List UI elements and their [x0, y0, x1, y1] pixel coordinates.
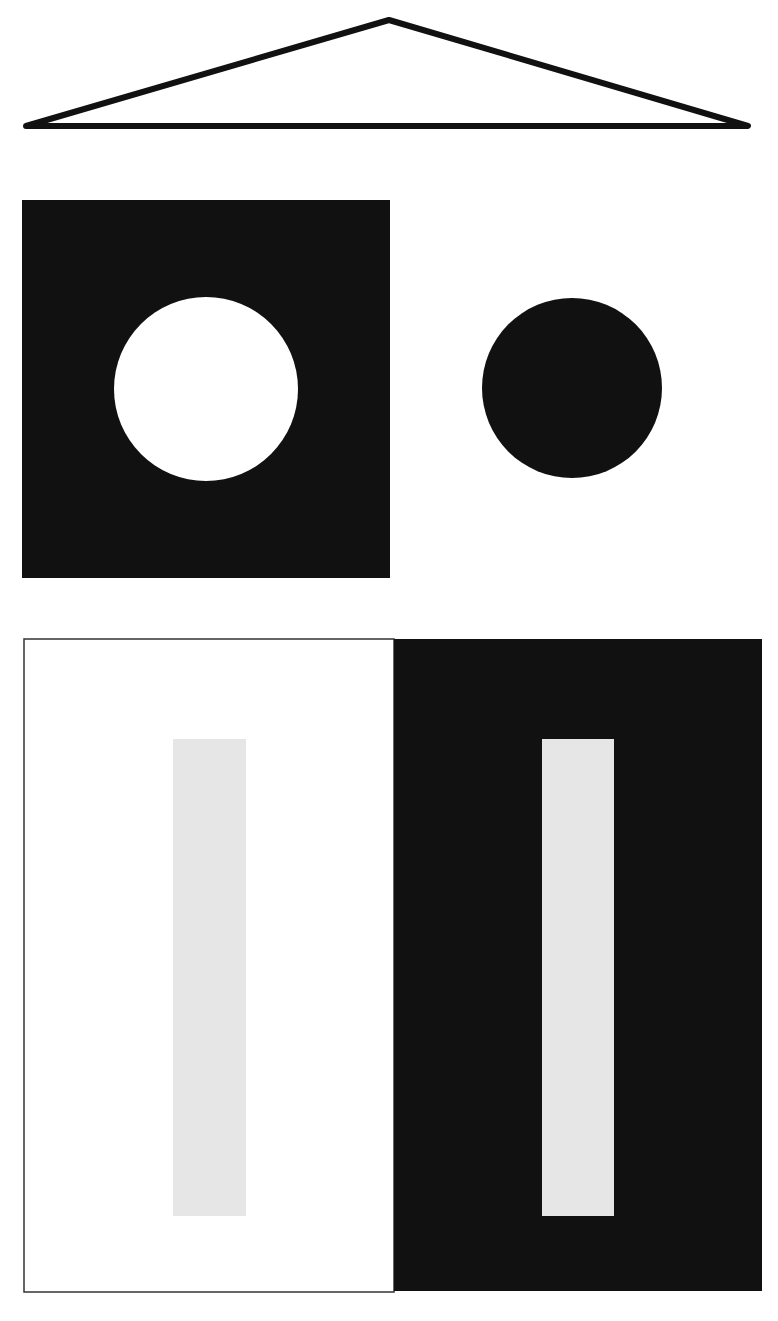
top-row-group — [22, 200, 662, 578]
triangle-outline — [26, 20, 748, 126]
white-circle-in-square — [114, 297, 298, 481]
left-gray-bar — [173, 739, 246, 1216]
right-gray-bar — [542, 739, 614, 1216]
black-circle — [482, 298, 662, 478]
illusion-diagram — [0, 0, 778, 1321]
bottom-row-group — [24, 639, 762, 1292]
